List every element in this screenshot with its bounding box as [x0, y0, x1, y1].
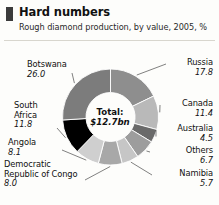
slice-label-canada-value: 11.4: [182, 109, 213, 119]
slice-label-australia-value: 4.5: [177, 134, 213, 144]
slice-label-botswana: Botswana 26.0: [27, 60, 67, 79]
donut-slice: [111, 69, 154, 106]
donut-slice: [116, 137, 137, 163]
header-marker-icon: [6, 7, 13, 21]
slice-label-angola-value: 8.1: [8, 148, 36, 158]
center-total-label: Total:: [80, 107, 140, 117]
slice-label-south-africa: South Africa 11.8: [14, 101, 38, 130]
leader-line: [57, 128, 66, 138]
slice-label-others-value: 6.7: [186, 156, 213, 166]
slice-label-canada: Canada 11.4: [182, 99, 213, 118]
leader-line: [85, 166, 110, 180]
donut-slice: [77, 135, 104, 164]
center-total: Total: $12.7bn: [80, 107, 140, 128]
center-total-value: $12.7bn: [80, 117, 140, 127]
leader-line: [131, 162, 152, 175]
slice-label-drc: Democratic Republic of Congo 8.0: [4, 160, 78, 189]
chart-subtitle: Rough diamond production, by value, 2005…: [19, 22, 207, 32]
slice-label-botswana-value: 26.0: [27, 70, 67, 80]
leader-line: [72, 73, 74, 83]
slice-label-australia: Australia 4.5: [177, 124, 213, 143]
chart-title: Hard numbers: [19, 5, 110, 19]
chart-figure: Hard numbers Rough diamond production, b…: [0, 0, 219, 205]
slice-label-namibia-value: 5.7: [179, 179, 213, 189]
slice-label-russia: Russia 17.8: [187, 58, 213, 77]
header-divider: [4, 40, 215, 41]
slice-label-namibia: Namibia 5.7: [179, 169, 213, 188]
slice-label-others: Others 6.7: [186, 146, 213, 165]
slice-label-russia-value: 17.8: [187, 68, 213, 78]
slice-label-drc-value: 8.0: [4, 179, 78, 189]
leader-line: [146, 151, 150, 152]
donut-slice: [98, 141, 122, 165]
leader-line: [137, 64, 166, 75]
donut-slice: [124, 130, 151, 157]
leader-line: [62, 150, 86, 160]
slice-label-angola: Angola 8.1: [8, 138, 36, 157]
slice-label-south-africa-value: 11.8: [14, 120, 38, 130]
